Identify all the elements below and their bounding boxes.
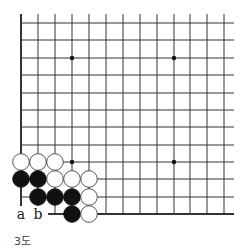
white-stone bbox=[64, 171, 81, 188]
black-stone bbox=[64, 189, 81, 206]
star-point bbox=[172, 56, 176, 60]
point-label-b: b bbox=[34, 206, 43, 222]
black-stone bbox=[13, 171, 30, 188]
point-labels: ab bbox=[17, 206, 43, 222]
white-stone bbox=[30, 154, 47, 171]
black-stone bbox=[47, 189, 64, 206]
go-board: ab bbox=[0, 0, 246, 251]
white-stone bbox=[81, 189, 98, 206]
white-stone bbox=[47, 154, 64, 171]
black-stone bbox=[64, 206, 81, 223]
white-stone bbox=[81, 206, 98, 223]
point-label-a: a bbox=[17, 206, 25, 222]
diagram-caption: 3도 bbox=[14, 232, 31, 248]
star-point bbox=[70, 56, 74, 60]
white-stone bbox=[13, 154, 30, 171]
white-stone bbox=[81, 171, 98, 188]
white-stone bbox=[47, 171, 64, 188]
black-stone bbox=[30, 171, 47, 188]
star-point bbox=[70, 160, 74, 164]
star-point bbox=[172, 160, 176, 164]
black-stone bbox=[30, 189, 47, 206]
